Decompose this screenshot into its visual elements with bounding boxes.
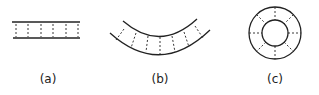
panel-a-straight-strip — [12, 22, 80, 38]
panel-c-annulus — [249, 7, 301, 59]
panel-b-label: (b) — [140, 72, 180, 86]
panel-c-label: (c) — [255, 72, 295, 86]
panel-b-curved-strip — [110, 19, 210, 55]
panel-a-label: (a) — [28, 72, 68, 86]
